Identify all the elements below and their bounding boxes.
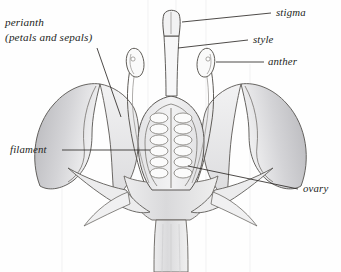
petal-left [35, 84, 100, 189]
style [164, 36, 179, 96]
figure-canvas: perianth(petals and sepals) stigma style… [0, 0, 341, 272]
pistil-group [163, 10, 180, 96]
anther-left [126, 48, 144, 77]
label-ovary: ovary [303, 182, 328, 194]
stigma [163, 10, 180, 36]
label-perianth-line1: perianth [5, 16, 44, 28]
anther-left-pore [131, 57, 135, 61]
ovary-group [138, 96, 204, 190]
anther-right [197, 48, 215, 77]
label-anther: anther [268, 55, 297, 67]
petal-right [241, 84, 306, 189]
label-perianth-line2: (petals and sepals) [5, 31, 92, 43]
leader-style [178, 40, 248, 48]
label-stigma: stigma [276, 6, 306, 18]
label-filament: filament [10, 143, 47, 155]
label-perianth: perianth(petals and sepals) [5, 15, 92, 44]
leader-stigma [182, 13, 271, 22]
anther-right-pore [206, 57, 210, 61]
label-style: style [253, 33, 274, 45]
